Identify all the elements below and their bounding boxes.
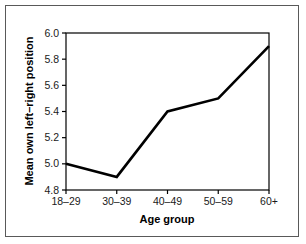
x-tick-label: 60+: [260, 195, 278, 207]
y-axis-title: Mean own left–right position: [23, 36, 35, 185]
x-tick-label: 30–39: [102, 195, 131, 207]
y-tick-label: 5.4: [44, 105, 59, 117]
y-tick-label: 5.0: [44, 157, 59, 169]
y-tick-label: 5.8: [44, 53, 59, 65]
x-axis-ticks: 18–2930–3940–4950–5960+: [51, 190, 278, 207]
x-tick-label: 50–59: [204, 195, 233, 207]
line-chart: 4.85.05.25.45.65.86.0 18–2930–3940–4950–…: [0, 0, 306, 244]
y-axis-ticks: 4.85.05.25.45.65.86.0: [44, 27, 66, 196]
y-tick-label: 4.8: [44, 184, 59, 196]
x-tick-label: 40–49: [153, 195, 182, 207]
y-tick-label: 5.2: [44, 131, 59, 143]
series-line-mean-position: [66, 46, 269, 177]
y-tick-label: 5.6: [44, 79, 59, 91]
x-tick-label: 18–29: [51, 195, 80, 207]
y-tick-label: 6.0: [44, 27, 59, 39]
x-axis-title: Age group: [140, 213, 195, 225]
